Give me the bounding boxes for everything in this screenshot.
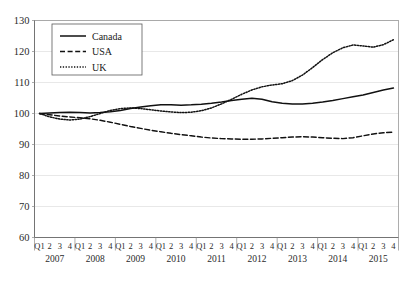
y-tick-label-60: 60 xyxy=(19,232,30,243)
x-quarter-label-2015-q2: 2 xyxy=(371,241,375,251)
x-quarter-label-2009-q2: 2 xyxy=(128,241,132,251)
x-year-label-2011: 2011 xyxy=(207,254,226,264)
x-year-label-2013: 2013 xyxy=(288,254,307,264)
chart-canvas: 60708090100110120130 Q1234Q1234Q1234Q123… xyxy=(0,0,412,284)
x-quarter-label-2012-q1: Q1 xyxy=(237,241,247,251)
x-quarter-label-2011-q2: 2 xyxy=(209,241,213,251)
x-quarter-label-2014-q3: 3 xyxy=(341,241,345,251)
line-chart: 60708090100110120130 Q1234Q1234Q1234Q123… xyxy=(0,0,412,284)
x-quarter-label-2014-q2: 2 xyxy=(331,241,335,251)
legend-label-usa: USA xyxy=(92,46,113,57)
x-quarter-label-2009-q3: 3 xyxy=(139,241,143,251)
x-axis-quarter-labels: Q1234Q1234Q1234Q1234Q1234Q1234Q1234Q1234… xyxy=(34,241,396,251)
x-quarter-label-2014-q1: Q1 xyxy=(317,241,327,251)
x-quarter-label-2010-q3: 3 xyxy=(179,241,183,251)
x-quarter-label-2008-q4: 4 xyxy=(108,241,113,251)
x-quarter-label-2013-q4: 4 xyxy=(310,241,315,251)
x-quarter-label-2012-q3: 3 xyxy=(260,241,264,251)
x-quarter-label-2011-q4: 4 xyxy=(230,241,235,251)
x-quarter-label-2015-q4: 4 xyxy=(391,241,396,251)
y-tick-label-120: 120 xyxy=(14,46,30,57)
x-axis-year-labels: 200720082009201020112012201320142015 xyxy=(45,254,388,264)
series-line-canada xyxy=(40,88,394,113)
y-tick-label-80: 80 xyxy=(19,170,30,181)
x-year-label-2014: 2014 xyxy=(328,254,347,264)
x-quarter-label-2007-q4: 4 xyxy=(68,241,73,251)
x-year-label-2010: 2010 xyxy=(167,254,186,264)
x-quarter-label-2015-q1: Q1 xyxy=(358,241,368,251)
x-year-label-2007: 2007 xyxy=(45,254,64,264)
y-tick-label-100: 100 xyxy=(14,108,30,119)
x-quarter-label-2014-q4: 4 xyxy=(351,241,356,251)
chart-legend: CanadaUSAUK xyxy=(52,24,142,75)
x-quarter-label-2013-q2: 2 xyxy=(290,241,294,251)
x-quarter-label-2013-q1: Q1 xyxy=(277,241,287,251)
x-quarter-label-2007-q1: Q1 xyxy=(34,241,44,251)
x-quarter-label-2011-q1: Q1 xyxy=(196,241,206,251)
x-quarter-label-2010-q4: 4 xyxy=(189,241,194,251)
x-quarter-label-2011-q3: 3 xyxy=(219,241,223,251)
legend-label-uk: UK xyxy=(92,62,107,73)
y-tick-label-130: 130 xyxy=(14,15,30,26)
legend-label-canada: Canada xyxy=(92,31,123,42)
y-tick-label-110: 110 xyxy=(14,77,29,88)
x-quarter-label-2010-q1: Q1 xyxy=(156,241,166,251)
x-quarter-label-2013-q3: 3 xyxy=(300,241,304,251)
x-quarter-label-2012-q4: 4 xyxy=(270,241,275,251)
x-year-label-2008: 2008 xyxy=(86,254,105,264)
x-quarter-label-2008-q2: 2 xyxy=(88,241,92,251)
x-quarter-label-2009-q1: Q1 xyxy=(115,241,125,251)
y-axis-tick-labels: 60708090100110120130 xyxy=(14,15,35,243)
x-quarter-label-2012-q2: 2 xyxy=(250,241,254,251)
series-line-usa xyxy=(40,114,394,140)
x-quarter-label-2008-q1: Q1 xyxy=(75,241,85,251)
x-quarter-label-2007-q2: 2 xyxy=(48,241,52,251)
x-quarter-label-2007-q3: 3 xyxy=(58,241,62,251)
x-quarter-label-2015-q3: 3 xyxy=(381,241,385,251)
x-year-label-2009: 2009 xyxy=(126,254,145,264)
x-quarter-label-2008-q3: 3 xyxy=(98,241,102,251)
y-tick-label-90: 90 xyxy=(19,139,30,150)
x-year-label-2012: 2012 xyxy=(247,254,266,264)
y-tick-label-70: 70 xyxy=(19,201,30,212)
x-quarter-label-2009-q4: 4 xyxy=(149,241,154,251)
x-year-label-2015: 2015 xyxy=(369,254,388,264)
x-quarter-label-2010-q2: 2 xyxy=(169,241,173,251)
